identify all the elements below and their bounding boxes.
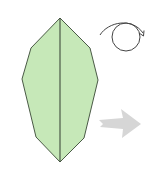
turn-over-arc (100, 23, 143, 35)
turn-over-icon (100, 23, 144, 51)
next-step-arrow-icon (99, 109, 141, 138)
next-arrow-shape (99, 109, 141, 138)
origami-diagram: origami-step (0, 0, 155, 175)
turn-over-circle (112, 23, 140, 51)
leaf-shape (22, 18, 98, 162)
